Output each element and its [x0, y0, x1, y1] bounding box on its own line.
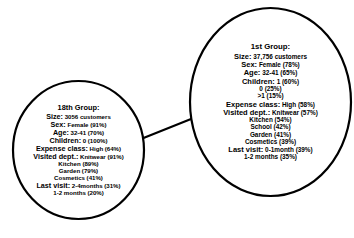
- node-group-18-title: 18th Group:: [58, 104, 100, 112]
- row-value-children: 1 (60%): [277, 78, 299, 85]
- node-group-18[interactable]: 18th Group: Size: 3056 customers Sex: Fe…: [13, 81, 144, 219]
- row-value-visited-dept: Knitwear (91%): [80, 153, 124, 160]
- diagram-canvas: 18th Group: Size: 3056 customers Sex: Fe…: [0, 0, 354, 238]
- row-value-age: 32-41 (65%): [262, 69, 297, 76]
- row-value-size: 37,756 customers: [253, 53, 307, 60]
- node-group-18-last-visit-1-2-months: 1-2 months (20%): [53, 190, 103, 196]
- node-group-1-dept-school: School (42%): [250, 124, 290, 131]
- row-value-sex: Female (78%): [259, 61, 300, 68]
- row-value-sex: Female (91%): [67, 121, 106, 128]
- row-value-last-visit: 2-4months (31%): [72, 182, 121, 189]
- row-value-size: 3056 customers: [65, 113, 111, 120]
- row-value-expense-class: High (58%): [282, 101, 315, 108]
- node-group-1[interactable]: 1st Group: Size: 37,756 customers Sex: F…: [190, 8, 351, 196]
- row-value-expense-class: High (64%): [90, 145, 122, 152]
- row-value-age: 32-41 (70%): [71, 129, 105, 136]
- node-group-1-title: 1st Group:: [251, 43, 290, 51]
- row-value-last-visit: 0-1month (39%): [265, 146, 313, 153]
- row-value-children: 0 (100%): [83, 137, 108, 144]
- node-group-1-last-visit-1-2-months: 1-2 months (35%): [244, 154, 297, 161]
- row-value-visited-dept: Knitwear (57%): [272, 109, 318, 116]
- edge-group18-to-group1: [141, 117, 196, 139]
